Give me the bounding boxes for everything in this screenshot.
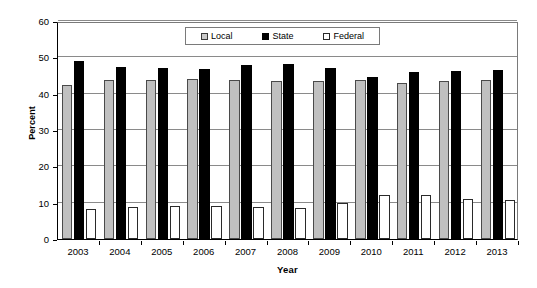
chart-legend: Local State Federal [185, 27, 380, 45]
x-tick-mark [183, 241, 184, 245]
bar-federal [337, 203, 348, 239]
bar-group [268, 23, 310, 239]
x-tick-label: 2010 [350, 246, 392, 257]
gridline [58, 20, 517, 21]
bar-state [241, 65, 252, 239]
bar-local [271, 81, 282, 239]
bar-group [58, 23, 100, 239]
bar-state [367, 77, 378, 239]
x-tick-mark [308, 241, 309, 245]
x-tick-label: 2012 [434, 246, 476, 257]
legend-label-local: Local [211, 31, 233, 41]
bar-group [184, 23, 226, 239]
bar-group [309, 23, 351, 239]
x-tick-label: 2004 [99, 246, 141, 257]
bar-federal [379, 195, 390, 239]
bar-local [355, 80, 366, 239]
plot-area [57, 22, 518, 240]
bar-federal [170, 206, 181, 239]
bar-group [100, 23, 142, 239]
x-tick-mark [99, 241, 100, 245]
x-tick-mark [434, 241, 435, 245]
bar-group [435, 23, 477, 239]
legend-label-state: State [272, 31, 293, 41]
bar-federal [421, 195, 432, 239]
bar-federal [211, 206, 222, 239]
legend-swatch-state-icon [262, 33, 269, 40]
bar-local [229, 80, 240, 239]
x-tick-mark [350, 241, 351, 245]
x-axis-title: Year [57, 264, 518, 275]
bar-local [187, 79, 198, 239]
bar-local [397, 83, 408, 239]
bar-state [325, 68, 336, 239]
bar-federal [505, 200, 516, 239]
y-tick-label: 60 [27, 17, 49, 27]
legend-label-federal: Federal [333, 31, 364, 41]
bar-group [351, 23, 393, 239]
x-tick-label: 2006 [183, 246, 225, 257]
bar-chart: Percent 0102030405060 200320042005200620… [0, 0, 537, 288]
x-tick-label: 2013 [476, 246, 518, 257]
y-tick-label: 10 [27, 199, 49, 209]
bar-state [74, 61, 85, 239]
legend-item-local: Local [201, 31, 233, 41]
x-tick-label: 2005 [141, 246, 183, 257]
legend-swatch-federal-icon [323, 33, 330, 40]
bar-state [116, 67, 127, 239]
bar-state [409, 72, 420, 239]
bar-state [199, 69, 210, 239]
x-tick-label: 2007 [225, 246, 267, 257]
bar-federal [128, 207, 139, 239]
legend-item-state: State [262, 31, 293, 41]
bar-local [313, 81, 324, 239]
legend-swatch-local-icon [201, 33, 208, 40]
bar-state [493, 70, 504, 239]
x-tick-mark [392, 241, 393, 245]
bar-local [62, 85, 73, 239]
y-tick-label: 30 [27, 126, 49, 136]
bar-state [451, 71, 462, 239]
bar-local [104, 80, 115, 239]
y-tick-label: 0 [27, 235, 49, 245]
bar-federal [295, 208, 306, 239]
bar-group [477, 23, 519, 239]
bar-federal [86, 209, 97, 239]
x-tick-mark [141, 241, 142, 245]
bar-group [142, 23, 184, 239]
bar-local [146, 80, 157, 239]
x-tick-mark [518, 241, 519, 245]
bar-federal [253, 207, 264, 239]
bar-local [481, 80, 492, 239]
x-tick-label: 2011 [392, 246, 434, 257]
bar-group [393, 23, 435, 239]
y-axis-title: Percent [27, 93, 37, 153]
bar-group [226, 23, 268, 239]
bar-state [158, 68, 169, 239]
x-tick-mark [476, 241, 477, 245]
bars-layer [58, 23, 517, 239]
y-tick-label: 40 [27, 90, 49, 100]
legend-item-federal: Federal [323, 31, 364, 41]
x-tick-label: 2003 [57, 246, 99, 257]
x-tick-mark [267, 241, 268, 245]
y-tick-mark [53, 240, 57, 241]
y-tick-label: 50 [27, 53, 49, 63]
x-tick-mark [225, 241, 226, 245]
bar-state [283, 64, 294, 239]
bar-federal [463, 199, 474, 239]
x-tick-label: 2009 [308, 246, 350, 257]
y-tick-label: 20 [27, 162, 49, 172]
x-tick-label: 2008 [267, 246, 309, 257]
bar-local [439, 81, 450, 239]
